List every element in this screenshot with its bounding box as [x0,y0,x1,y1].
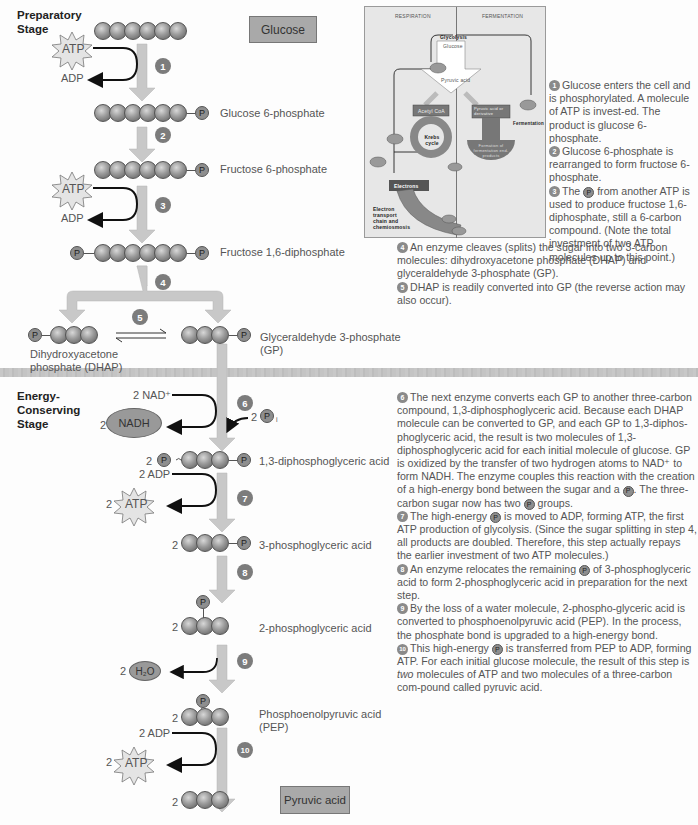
molecule-label: 2-phosphoglyceric acid [259,622,372,635]
coef-label: 2 [172,796,178,808]
step-5-badge: 5 [132,309,148,325]
bond [84,253,94,254]
phosphate-icon: P [237,453,251,467]
phosphate-icon: P [195,106,209,120]
description-text: An enzyme relocates the remaining [410,563,576,575]
phosphate-icon: P [524,499,535,510]
step-9-badge: 9 [237,653,253,669]
step-badge: 3 [549,186,560,197]
adp-label: ADP [61,212,84,224]
emphasis-text: two [397,668,414,680]
atp-label: ATP [62,182,84,196]
description-text: groups. [538,497,573,509]
phosphate-icon: P [237,536,251,550]
carbon-ball [211,326,229,344]
water-ellipse: H₂O [129,661,161,681]
nad-label: 2 NAD⁺ [133,389,171,402]
step-badge: 2 [549,146,560,157]
3-phosphoglyceric-acid-molecule: P [181,534,261,554]
label-line: Glyceraldehyde 3-phosphate [260,331,401,344]
carbon-ball [211,791,229,809]
glycolysis-label: Glycolysis [440,34,467,40]
atp-label: ATP [125,497,147,511]
molecule-label: Fructose 6-phosphate [220,163,327,176]
bond [229,460,237,461]
gp-molecule: P [181,326,261,346]
bond [229,543,237,544]
adp-label: 2 ADP [139,727,170,739]
coef-label: 2 [106,498,112,510]
dhap-molecule: P [28,326,108,346]
fructose-6-phosphate-molecule: P [94,161,224,181]
step-badge: 10 [397,644,408,655]
glucose-box: Glucose [249,16,317,43]
step-3-badge: 3 [155,197,171,213]
inorganic-phosphate-icon: P [260,409,274,423]
description-text: Glucose 6-phosphate is rearranged to for… [549,145,690,183]
atp-label: ATP [62,42,84,56]
description-text: The [562,185,580,197]
description-text: This high-energy [410,642,489,654]
label-line: (GP) [260,344,401,357]
inset-ferm-products-label: Formation of fermentation end-products [473,143,509,158]
bond [187,170,195,171]
carbon-ball [169,22,187,40]
atp-label: ATP [125,756,147,770]
phosphate-icon: P [196,694,210,708]
step-4-5-description: 4An enzyme cleaves (splits) the sugar in… [397,241,697,307]
phosphate-icon: P [28,328,42,342]
phosphate-icon: P [490,512,501,523]
coef-label: 2 [172,539,178,551]
pep-label: Phosphoenolpyruvic acid (PEP) [259,708,381,734]
phosphate-icon: P [492,644,503,655]
step-badge: 8 [397,564,408,575]
inset-krebs-label: Krebs cycle [423,134,441,146]
inset-electrons-label: Electrons [394,183,419,189]
description-text: By the loss of a water molecule, 2-phosp… [397,602,685,640]
bond [229,335,237,336]
carbon-ball [169,161,187,179]
label-line: Dihydroxyacetone [30,348,122,361]
carbon-ball [211,451,229,469]
glucose-6-phosphate-molecule: P [94,104,224,124]
step-8-badge: 8 [237,564,253,580]
pi-subscript: i [276,416,278,423]
step-badge: 4 [397,242,408,253]
phosphate-icon: P [195,246,209,260]
phosphate-icon: P [579,565,590,576]
step-badge: 9 [397,603,408,614]
step-6-badge: 6 [237,395,253,411]
coef-label: 2 [251,411,257,423]
coef-label: 2 [146,455,152,467]
step-badge: 7 [397,511,408,522]
step-7-badge: 7 [237,490,253,506]
2-phosphoglyceric-acid-molecule [181,617,241,637]
phosphate-icon: P [70,246,84,260]
dhap-label: Dihydroxyacetone phosphate (DHAP) [30,348,122,374]
description-text: molecules of ATP and two molecules of a … [397,668,672,693]
phosphate-icon: P [583,187,594,198]
step-badge: 6 [397,392,408,403]
step-1-badge: 1 [155,58,171,74]
step-6-10-description: 6The next enzyme converts each GP to ano… [397,391,697,695]
molecule-label: 1,3-diphosphoglyceric acid [259,455,389,468]
pep-molecule [181,708,241,728]
label-line: chemiosmosis [373,224,410,230]
step-4-badge: 4 [155,274,171,290]
label-line: phosphate (DHAP) [30,361,122,374]
coef-label: 2 [172,712,178,724]
nadh-ellipse: NADH [106,408,162,438]
overview-inset: RESPIRATION FERMENTATION [364,6,546,238]
phosphate-icon: P [157,453,171,467]
step-badge: 1 [549,80,560,91]
step-10-badge: 10 [237,742,253,758]
phosphate-icon: P [623,486,634,497]
carbon-ball [211,708,229,726]
molecule-label: Fructose 1,6-diphosphate [220,246,345,259]
carbon-ball [211,534,229,552]
bond [42,335,50,336]
coef-label: 2 [172,621,178,633]
inset-acetyl-label: Acetyl CoA [418,108,445,114]
inset-etc-label: Electron transport chain and chemiosmosi… [373,206,410,230]
bond [187,113,195,114]
